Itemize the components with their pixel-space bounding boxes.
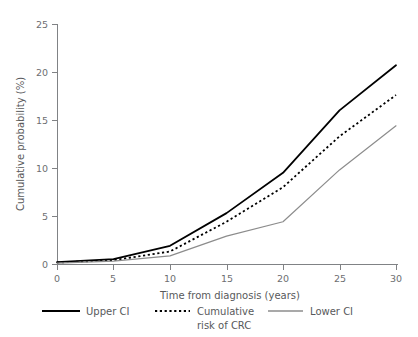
x-tick-label: 10: [164, 273, 176, 284]
x-tick-label: 25: [334, 273, 346, 284]
x-axis-tick-labels: 0 5 10 15 20 25 30: [54, 273, 402, 284]
x-tick-label: 15: [221, 273, 233, 284]
y-tick-label: 15: [36, 115, 48, 126]
chart-figure: 25 20 15 10 5 0 0 5 10 15 20 25 30: [0, 0, 418, 337]
series-line-lower-ci: [57, 126, 396, 263]
legend-label-upper-ci: Upper CI: [86, 306, 129, 317]
series-line-cumulative-risk: [57, 95, 396, 263]
y-tick-label: 10: [36, 163, 48, 174]
x-tick-label: 20: [277, 273, 289, 284]
y-axis-title: Cumulative probability (%): [15, 77, 26, 211]
y-axis-tick-labels: 25 20 15 10 5 0: [36, 19, 48, 270]
x-axis-ticks: [57, 264, 396, 270]
legend-label-lower-ci: Lower CI: [310, 306, 353, 317]
y-axis-ticks: [52, 24, 57, 264]
x-axis-title: Time from diagnosis (years): [159, 290, 300, 301]
chart-legend: Upper CI Cumulative risk of CRC Lower CI: [42, 306, 353, 331]
y-tick-label: 0: [42, 259, 48, 270]
legend-label-cumulative-risk-line2: risk of CRC: [197, 320, 251, 331]
x-tick-label: 30: [390, 273, 402, 284]
y-tick-label: 25: [36, 19, 48, 30]
series-line-upper-ci: [57, 65, 396, 262]
y-tick-label: 5: [42, 211, 48, 222]
line-chart: 25 20 15 10 5 0 0 5 10 15 20 25 30: [0, 0, 418, 337]
legend-label-cumulative-risk: Cumulative: [197, 306, 254, 317]
series-group: [57, 65, 396, 263]
y-tick-label: 20: [36, 67, 48, 78]
x-tick-label: 0: [54, 273, 60, 284]
x-tick-label: 5: [110, 273, 116, 284]
